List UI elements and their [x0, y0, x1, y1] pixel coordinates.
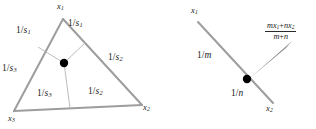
- edge-label-upper-right: 1/s1: [68, 19, 83, 29]
- vertex-label-x1: x1: [57, 2, 64, 12]
- segment-dividing-point: [243, 75, 251, 83]
- edge-label-bottom-right-sub: 2: [99, 89, 102, 96]
- edge-label-right-sub: 2: [119, 55, 122, 62]
- segment-label-upper: 1/m: [197, 51, 212, 61]
- cevian-to-bottom-edge: [64, 63, 70, 108]
- cevian-to-right-edge: [64, 42, 86, 63]
- edge-label-left-sub: 3: [13, 66, 16, 73]
- segment-label-lower-den: n: [239, 88, 244, 98]
- edge-label-bottom-left: 1/s3: [37, 89, 52, 99]
- endpoint-label-x1-sub: 1: [195, 9, 198, 15]
- triangle-edge-bottom: [14, 105, 142, 111]
- edge-label-upper-right-sub: 1: [79, 21, 82, 28]
- vertex-label-x2-sub: 2: [147, 106, 150, 112]
- edge-label-upper-left-sub: 1: [27, 28, 30, 35]
- edge-label-bottom-right: 1/s2: [88, 87, 103, 97]
- vertex-label-x3: x3: [8, 114, 15, 124]
- vertex-label-x3-sub: 3: [12, 117, 15, 123]
- vertex-label-x1-sub: 1: [61, 5, 64, 11]
- segment-label-upper-den: m: [205, 50, 212, 60]
- triangle-interior-point: [60, 59, 68, 67]
- figure-container: x1 x2 x3 1/s1 1/s1 1/s3 1/s2 1/s3 1/s2 x…: [0, 0, 316, 129]
- endpoint-label-x2: x2: [266, 104, 273, 114]
- edge-label-left: 1/s3: [2, 64, 17, 74]
- callout-formula-numerator: mx1+nx2: [265, 21, 296, 32]
- segment-label-lower: 1/n: [231, 89, 243, 99]
- triangle-outline: [14, 19, 142, 111]
- vertex-label-x2: x2: [143, 103, 150, 113]
- endpoint-label-x1: x1: [191, 6, 198, 16]
- callout-formula-denominator: m+n: [265, 32, 296, 42]
- edge-label-bottom-left-sub: 3: [48, 91, 51, 98]
- callout-pointer-arrow: [250, 41, 292, 78]
- edge-label-upper-left: 1/s1: [16, 26, 31, 36]
- callout-formula: mx1+nx2 m+n: [265, 21, 296, 41]
- edge-label-right: 1/s2: [108, 53, 123, 63]
- endpoint-label-x2-sub: 2: [270, 107, 273, 113]
